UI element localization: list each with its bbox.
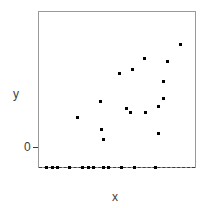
data-point [162, 97, 165, 100]
data-point [68, 166, 71, 169]
x-axis-label: x [112, 191, 118, 203]
data-point [131, 68, 134, 71]
data-point [129, 111, 132, 114]
data-point [166, 60, 169, 63]
data-point [179, 43, 182, 46]
data-point [120, 166, 123, 169]
data-point [143, 57, 146, 60]
y-axis-zero-tick-label: 0 [24, 141, 31, 153]
data-point [154, 166, 157, 169]
zero-reference-line [39, 167, 195, 168]
data-point [51, 166, 54, 169]
data-point [92, 166, 95, 169]
data-point [107, 166, 110, 169]
data-point [45, 166, 48, 169]
data-point [162, 80, 165, 83]
data-point [87, 166, 90, 169]
data-point [125, 107, 128, 110]
data-point [157, 105, 160, 108]
scatter-plot-figure: y 0 x [0, 0, 213, 208]
y-axis-label: y [13, 88, 19, 100]
data-point [102, 138, 105, 141]
plot-frame [38, 11, 196, 168]
data-point [81, 166, 84, 169]
data-point [56, 166, 59, 169]
data-point [76, 116, 79, 119]
data-point [157, 132, 160, 135]
data-point [100, 128, 103, 131]
plot-data-area [39, 12, 195, 167]
data-point [133, 166, 136, 169]
data-point [102, 166, 105, 169]
data-point [144, 111, 147, 114]
data-point [118, 72, 121, 75]
data-point [99, 100, 102, 103]
